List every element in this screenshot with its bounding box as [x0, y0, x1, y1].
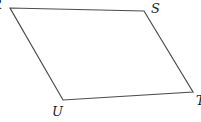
parallelogram-drawing — [0, 0, 201, 122]
vertex-label-r: R — [0, 0, 2, 11]
vertex-label-u: U — [52, 105, 63, 118]
vertex-label-s: S — [151, 2, 160, 15]
geometry-figure: R S T U — [0, 0, 201, 122]
vertex-label-t: T — [196, 94, 201, 107]
parallelogram-outline — [10, 8, 193, 100]
